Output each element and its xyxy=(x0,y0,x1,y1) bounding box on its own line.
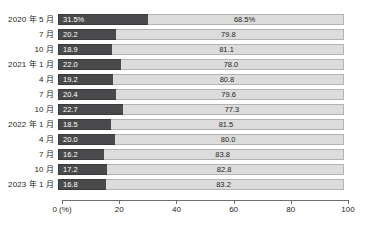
bar-segment-light: 82.8 xyxy=(107,164,344,175)
bar-segment-dark: 16.2 xyxy=(58,149,104,160)
bar-segment-dark-value: 20.4 xyxy=(59,91,78,99)
x-axis-tick-label: 100 xyxy=(341,206,354,214)
row-category-label: 2020 年 5 月 xyxy=(0,16,58,24)
chart-row: 2020 年 5 月31.5%68.5% xyxy=(0,12,368,27)
bar-segment-dark-value: 22.7 xyxy=(59,106,78,114)
x-axis-tick xyxy=(176,200,177,204)
chart-row: 10 月22.777.3 xyxy=(0,102,368,117)
bar-segment-dark-value: 20.2 xyxy=(59,31,78,39)
bar-segment-light-value: 83.2 xyxy=(106,181,343,189)
stacked-bar: 17.282.8 xyxy=(58,164,344,175)
stacked-bar: 18.581.5 xyxy=(58,119,344,130)
row-category-label: 7 月 xyxy=(0,151,58,159)
stacked-bar: 18.981.1 xyxy=(58,44,344,55)
stacked-bar: 22.078.0 xyxy=(58,59,344,70)
bar-segment-light-value: 81.5 xyxy=(111,121,343,129)
bar-segment-dark: 19.2 xyxy=(58,74,113,85)
bar-segment-dark-value: 16.8 xyxy=(59,181,78,189)
row-category-label: 10 月 xyxy=(0,46,58,54)
bar-segment-dark: 20.4 xyxy=(58,89,116,100)
chart-row: 2021 年 1 月22.078.0 xyxy=(0,57,368,72)
bar-segment-dark-value: 20.0 xyxy=(59,136,78,144)
row-category-label: 2023 年 1 月 xyxy=(0,181,58,189)
x-axis-labels: 0 (%)20406080100 xyxy=(0,206,368,218)
bar-segment-light: 80.8 xyxy=(113,74,344,85)
row-category-label: 2022 年 1 月 xyxy=(0,121,58,129)
x-axis-tick xyxy=(119,200,120,204)
chart-row: 4 月20.080.0 xyxy=(0,132,368,147)
bar-segment-dark-value: 18.5 xyxy=(59,121,78,129)
bar-segment-dark-value: 22.0 xyxy=(59,61,78,69)
bar-segment-dark-value: 31.5% xyxy=(59,16,84,24)
bar-segment-dark-value: 17.2 xyxy=(59,166,78,174)
x-axis-tick xyxy=(291,200,292,204)
bar-segment-dark-value: 19.2 xyxy=(59,76,78,84)
stacked-bar: 16.283.8 xyxy=(58,149,344,160)
bar-segment-dark: 31.5% xyxy=(58,14,148,25)
bar-segment-dark: 18.5 xyxy=(58,119,111,130)
chart-row: 10 月17.282.8 xyxy=(0,162,368,177)
bar-segment-light: 83.8 xyxy=(104,149,344,160)
x-axis-tick xyxy=(62,200,63,204)
row-category-label: 2021 年 1 月 xyxy=(0,61,58,69)
x-axis-tick-label: 20 xyxy=(115,206,124,214)
stacked-bar: 16.883.2 xyxy=(58,179,344,190)
bar-segment-light-value: 80.8 xyxy=(113,76,343,84)
bar-segment-light-value: 79.6 xyxy=(116,91,343,99)
x-axis-tick-label: 40 xyxy=(172,206,181,214)
bar-segment-light: 83.2 xyxy=(106,179,344,190)
row-category-label: 4 月 xyxy=(0,76,58,84)
x-axis-tick xyxy=(348,200,349,204)
bar-segment-light: 81.5 xyxy=(111,119,344,130)
bar-segment-dark: 20.0 xyxy=(58,134,115,145)
stacked-bar-chart: 2020 年 5 月31.5%68.5%7 月20.279.810 月18.98… xyxy=(0,0,368,237)
bar-segment-light: 79.8 xyxy=(116,29,344,40)
stacked-bar: 20.080.0 xyxy=(58,134,344,145)
bar-segment-light-value: 80.0 xyxy=(115,136,343,144)
bar-segment-light-value: 68.5% xyxy=(148,16,343,24)
bar-segment-light-value: 77.3 xyxy=(123,106,343,114)
row-category-label: 10 月 xyxy=(0,106,58,114)
bar-segment-dark: 16.8 xyxy=(58,179,106,190)
row-category-label: 10 月 xyxy=(0,166,58,174)
x-axis-tick-label: 80 xyxy=(286,206,295,214)
chart-row: 2023 年 1 月16.883.2 xyxy=(0,177,368,192)
chart-row: 7 月20.279.8 xyxy=(0,27,368,42)
bar-segment-dark: 22.0 xyxy=(58,59,121,70)
stacked-bar: 31.5%68.5% xyxy=(58,14,344,25)
bar-segment-light: 81.1 xyxy=(112,44,344,55)
row-category-label: 7 月 xyxy=(0,31,58,39)
bar-segment-light-value: 79.8 xyxy=(116,31,343,39)
chart-row: 7 月16.283.8 xyxy=(0,147,368,162)
row-category-label: 4 月 xyxy=(0,136,58,144)
bar-segment-dark: 20.2 xyxy=(58,29,116,40)
bar-segment-dark-value: 16.2 xyxy=(59,151,78,159)
x-axis-tick-label: 60 xyxy=(229,206,238,214)
bar-segment-dark: 22.7 xyxy=(58,104,123,115)
stacked-bar: 20.479.6 xyxy=(58,89,344,100)
x-axis-tick xyxy=(234,200,235,204)
bar-segment-light: 78.0 xyxy=(121,59,344,70)
bar-segment-light: 79.6 xyxy=(116,89,344,100)
chart-row: 2022 年 1 月18.581.5 xyxy=(0,117,368,132)
bar-segment-light: 80.0 xyxy=(115,134,344,145)
chart-row: 7 月20.479.6 xyxy=(0,87,368,102)
bar-segment-light: 68.5% xyxy=(148,14,344,25)
chart-row: 4 月19.280.8 xyxy=(0,72,368,87)
chart-row: 10 月18.981.1 xyxy=(0,42,368,57)
bar-segment-light-value: 82.8 xyxy=(107,166,343,174)
bar-segment-light-value: 83.8 xyxy=(104,151,343,159)
bar-segment-light-value: 78.0 xyxy=(121,61,343,69)
bar-segment-light-value: 81.1 xyxy=(112,46,343,54)
x-axis-tick-label: 0 (%) xyxy=(52,206,71,214)
stacked-bar: 19.280.8 xyxy=(58,74,344,85)
bar-segment-dark: 17.2 xyxy=(58,164,107,175)
stacked-bar: 20.279.8 xyxy=(58,29,344,40)
row-category-label: 7 月 xyxy=(0,91,58,99)
bar-segment-dark: 18.9 xyxy=(58,44,112,55)
chart-rows: 2020 年 5 月31.5%68.5%7 月20.279.810 月18.98… xyxy=(0,12,368,192)
stacked-bar: 22.777.3 xyxy=(58,104,344,115)
x-axis-line xyxy=(62,200,348,201)
bar-segment-light: 77.3 xyxy=(123,104,344,115)
bar-segment-dark-value: 18.9 xyxy=(59,46,78,54)
